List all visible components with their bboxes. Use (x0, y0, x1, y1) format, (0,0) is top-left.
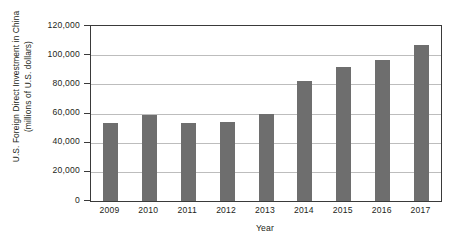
bar (375, 60, 390, 201)
x-axis-tick-label: 2015 (323, 206, 363, 215)
y-axis-tick-label: 0 (0, 196, 80, 205)
x-axis-tick-label: 2017 (401, 206, 441, 215)
plot-area (90, 25, 442, 202)
bar (336, 67, 351, 201)
bar (181, 123, 196, 201)
bar (142, 115, 157, 201)
x-axis-tick-label: 2016 (362, 206, 402, 215)
bar (414, 45, 429, 201)
bar (297, 81, 312, 201)
gridline (91, 55, 441, 56)
bar (259, 114, 274, 201)
y-axis-tick-label: 20,000 (0, 166, 80, 175)
y-axis-tick-label: 80,000 (0, 79, 80, 88)
y-axis-tick-label: 100,000 (0, 50, 80, 59)
y-axis-tick-label: 120,000 (0, 21, 80, 30)
x-axis-tick-label: 2010 (128, 206, 168, 215)
x-axis-tick-label: 2013 (245, 206, 285, 215)
x-axis-tick-label: 2011 (167, 206, 207, 215)
x-axis-tick-label: 2012 (206, 206, 246, 215)
bar-chart-figure: U.S. Foreign Direct Investment in China … (0, 0, 462, 248)
bar (220, 122, 235, 201)
x-axis-title: Year (90, 224, 440, 233)
y-axis-tick-label: 40,000 (0, 137, 80, 146)
x-axis-tick-label: 2009 (89, 206, 129, 215)
x-axis-tick-label: 2014 (284, 206, 324, 215)
y-axis-tick-label: 60,000 (0, 108, 80, 117)
bar (103, 123, 118, 201)
